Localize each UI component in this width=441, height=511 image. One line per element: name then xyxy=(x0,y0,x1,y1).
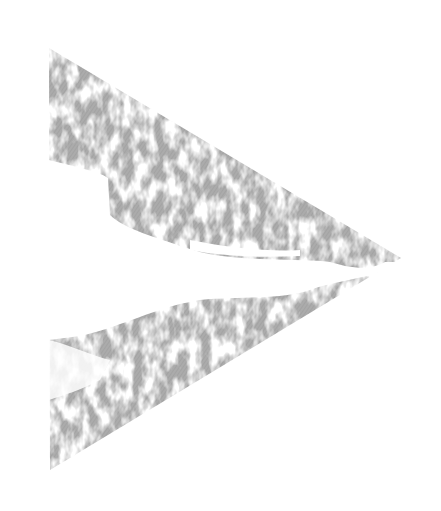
image-canvas xyxy=(0,0,441,511)
distressed-triangle-icon xyxy=(0,0,441,511)
